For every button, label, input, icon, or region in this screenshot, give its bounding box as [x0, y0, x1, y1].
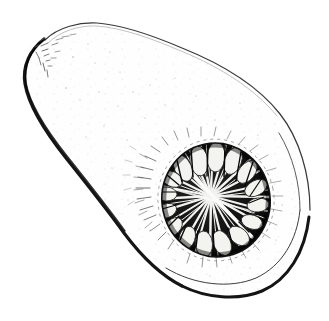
butternut-squash-illustration [0, 0, 329, 321]
illustration-canvas: Butternut squash cut lengthwise showing … [0, 0, 329, 321]
